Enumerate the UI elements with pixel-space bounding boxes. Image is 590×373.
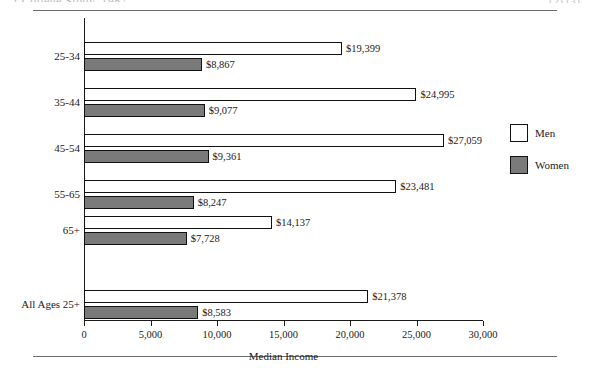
category-label: 55-65 [54, 188, 80, 200]
bar-men [84, 290, 368, 303]
x-tick-label: 30,000 [469, 329, 498, 340]
bar-men [84, 216, 272, 229]
x-tick [217, 321, 218, 326]
bar-men [84, 180, 396, 193]
category-label: 35-44 [54, 96, 80, 108]
legend-item: Men [510, 124, 580, 142]
legend-label: Women [535, 156, 569, 174]
bar-men [84, 88, 416, 101]
bar-value-women: $8,867 [206, 58, 235, 71]
bar-women [84, 196, 194, 209]
legend-swatch-women [510, 156, 528, 174]
header-divider [33, 10, 557, 11]
bar-women [84, 232, 187, 245]
bar-value-women: $9,077 [209, 104, 238, 117]
x-tick-label: 5,000 [139, 329, 163, 340]
bar-men [84, 134, 444, 147]
x-axis-title: Median Income [84, 350, 483, 362]
bar-women [84, 150, 209, 163]
clipped-header-badge: (2) (3) [549, 0, 580, 3]
x-tick-label: 10,000 [203, 329, 232, 340]
x-tick [84, 321, 85, 326]
bar-value-men: $14,137 [276, 216, 310, 229]
x-tick [284, 321, 285, 326]
legend-item: Women [510, 156, 580, 174]
bar-women [84, 58, 202, 71]
bar-value-women: $7,728 [191, 232, 220, 245]
x-tick-label: 15,000 [269, 329, 298, 340]
x-tick [350, 321, 351, 326]
bar-chart: 05,00010,00015,00020,00025,00030,000 $19… [84, 18, 483, 320]
category-label: 25-34 [54, 50, 80, 62]
category-label: 45-54 [54, 142, 80, 154]
bar-value-men: $23,481 [400, 180, 434, 193]
bar-value-men: $24,995 [420, 88, 454, 101]
x-tick [417, 321, 418, 326]
bar-value-men: $21,378 [372, 290, 406, 303]
bar-value-women: $9,361 [213, 150, 242, 163]
bar-men [84, 42, 342, 55]
clipped-page-header: r College Study, 1987 [14, 0, 127, 2]
x-tick-label: 0 [81, 329, 86, 340]
legend-swatch-men [510, 124, 528, 142]
bar-value-men: $19,399 [346, 42, 380, 55]
x-tick-label: 20,000 [336, 329, 365, 340]
bar-value-men: $27,059 [448, 134, 482, 147]
x-tick-label: 25,000 [402, 329, 431, 340]
category-label: All Ages 25+ [21, 298, 80, 310]
bar-women [84, 306, 198, 319]
bar-value-women: $8,247 [198, 196, 227, 209]
bar-women [84, 104, 205, 117]
legend-label: Men [535, 124, 555, 142]
bar-value-women: $8,583 [202, 306, 231, 319]
category-label: 65+ [63, 224, 80, 236]
x-tick [483, 321, 484, 326]
x-tick [151, 321, 152, 326]
